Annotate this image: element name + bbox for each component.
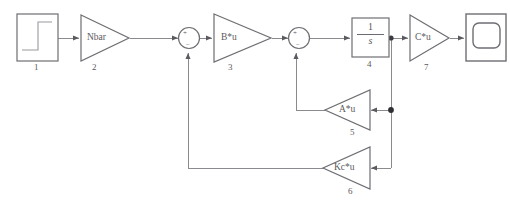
block-label-cu: C*u [415,33,431,43]
block-number-3: 3 [228,63,233,72]
block-label-nbar: Nbar [87,33,106,43]
block-step-source[interactable] [17,14,58,61]
integrator-denominator: s [355,36,386,47]
block-number-7: 7 [424,63,429,72]
block-diagram-canvas [0,0,510,207]
block-number-2: 2 [92,63,97,72]
block-number-6: 6 [348,187,353,196]
block-number-1: 1 [34,63,39,72]
junction-dot-au-branch [388,107,394,113]
block-scope[interactable] [466,14,506,61]
block-number-5: 5 [350,128,355,137]
integrator-transfer-function: 1 s [355,22,386,46]
block-label-kcu: Kc*u [334,163,355,173]
sum2-minus-sign: − [296,42,300,49]
integrator-numerator: 1 [355,22,386,33]
sum1-plus-sign: + [183,30,187,37]
block-label-au: A*u [339,105,355,115]
block-number-4: 4 [367,60,372,69]
sum1-minus-sign: − [186,42,190,49]
sum2-plus-sign: + [293,30,297,37]
block-label-bu: B*u [221,33,237,43]
